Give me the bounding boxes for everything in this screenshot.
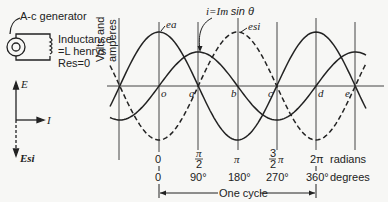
generator-pointer-arrow: [10, 18, 20, 34]
rad-tick-pi: π: [234, 153, 240, 165]
inductive-circuit-diagram: A-c generator Inductance =L henrys Res=0…: [0, 0, 388, 202]
ea-label: ea: [166, 18, 177, 30]
e-phasor-label: E: [20, 78, 28, 90]
rad-tick-3pi2-pi: π: [278, 153, 284, 165]
bottom-wire: [16, 56, 50, 60]
circuit: [7, 18, 52, 60]
y-axis-label-line2: amperes: [106, 19, 118, 62]
i-arrow-icon: [37, 118, 44, 123]
point-e-label: e: [345, 87, 350, 99]
esi-arrow-icon: [14, 149, 19, 156]
point-a-label: a: [189, 87, 195, 99]
ea-leader: [161, 26, 165, 31]
phasor-diagram: [14, 82, 45, 156]
axes: [107, 18, 384, 160]
deg-tick-270: 270°: [266, 171, 289, 183]
deg-tick-0: 0: [155, 171, 161, 183]
top-wire: [16, 34, 50, 38]
y-axis-label-line1: Volts and: [94, 17, 106, 62]
rad-tick-3pi2-den: 2: [270, 158, 276, 170]
generator-label: A-c generator: [20, 10, 87, 22]
one-cycle-label: One cycle: [219, 187, 268, 199]
deg-unit-label: degrees: [330, 171, 370, 183]
deg-tick-180: 180°: [228, 171, 251, 183]
i-phasor-label: I: [46, 114, 52, 126]
equation-pointer-arrow: [199, 18, 212, 50]
esi-label: esi: [248, 20, 260, 32]
deg-tick-360: 360°: [306, 171, 329, 183]
rad-tick-2pi: 2π: [310, 153, 324, 165]
point-c-label: c: [268, 87, 273, 99]
point-o-label: o: [161, 87, 167, 99]
esi-phasor-label: Esi: [19, 152, 36, 164]
rad-unit-label: radians: [330, 153, 367, 165]
generator-inner-icon: [12, 43, 20, 51]
point-b-label: b: [231, 87, 237, 99]
deg-tick-90: 90°: [190, 171, 207, 183]
e-arrow-icon: [14, 82, 19, 89]
inductor-coil-icon: [50, 38, 52, 54]
equation-label: i=Im sin θ: [206, 5, 254, 17]
cycle-arrowhead-left-icon: [160, 191, 166, 196]
point-d-label: d: [318, 87, 324, 99]
generator-icon: [7, 38, 25, 56]
cycle-arrowhead-right-icon: [309, 191, 315, 196]
rad-tick-pi2-den: 2: [196, 158, 202, 170]
esi-leader: [241, 28, 247, 32]
rad-tick-0: 0: [155, 153, 161, 165]
resistance-label: Res=0: [58, 57, 90, 69]
